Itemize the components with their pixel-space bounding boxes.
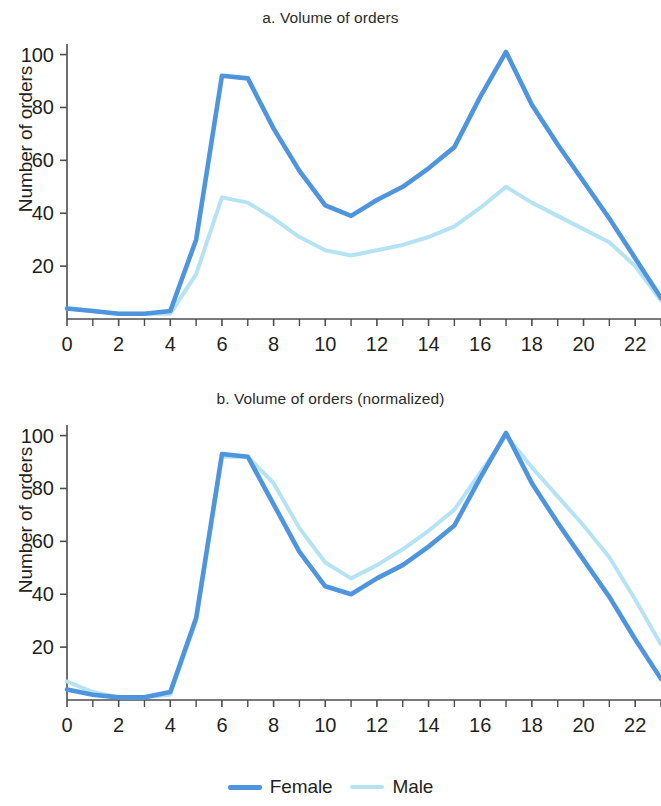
x-axis-tick-label: 18 xyxy=(521,333,543,355)
x-axis-tick-label: 16 xyxy=(469,333,491,355)
x-axis-tick-label: 10 xyxy=(314,333,336,355)
x-axis-tick-label: 2 xyxy=(113,333,124,355)
panel-b-chart-svg: 204060801000246810121416182022 xyxy=(0,413,661,763)
y-axis-tick-label: 40 xyxy=(32,583,54,605)
x-axis-tick-label: 4 xyxy=(165,714,176,736)
series-line-female xyxy=(67,433,661,697)
panel-b: b. Volume of orders (normalized) Number … xyxy=(0,385,661,770)
legend-item-male: Male xyxy=(350,776,433,798)
y-axis-tick-label: 20 xyxy=(32,636,54,658)
y-axis-tick-label: 40 xyxy=(32,202,54,224)
x-axis-tick-label: 20 xyxy=(572,714,594,736)
x-axis-tick-label: 0 xyxy=(61,333,72,355)
panel-b-plot: Number of orders 20406080100024681012141… xyxy=(0,413,661,763)
legend-label-female: Female xyxy=(270,776,333,798)
y-axis-tick-label: 80 xyxy=(32,96,54,118)
x-axis-tick-label: 8 xyxy=(268,714,279,736)
y-axis-tick-label: 100 xyxy=(21,425,54,447)
x-axis-tick-label: 14 xyxy=(417,714,439,736)
x-axis-tick-label: 8 xyxy=(268,333,279,355)
legend-swatch-female-icon xyxy=(228,785,262,790)
x-axis-tick-label: 0 xyxy=(61,714,72,736)
x-axis-tick-label: 10 xyxy=(314,714,336,736)
y-axis-tick-label: 60 xyxy=(32,149,54,171)
x-axis-tick-label: 6 xyxy=(216,714,227,736)
x-axis-tick-label: 2 xyxy=(113,714,124,736)
y-axis-tick-label: 20 xyxy=(32,255,54,277)
x-axis-tick-label: 18 xyxy=(521,714,543,736)
legend-item-female: Female xyxy=(228,776,333,798)
x-axis-tick-label: 22 xyxy=(624,714,646,736)
x-axis-tick-label: 14 xyxy=(417,333,439,355)
legend: Female Male xyxy=(0,770,661,804)
panel-b-title: b. Volume of orders (normalized) xyxy=(0,385,661,413)
x-axis-tick-label: 12 xyxy=(366,714,388,736)
figure-volume-of-orders: a. Volume of orders Number of orders 204… xyxy=(0,0,661,806)
x-axis-tick-label: 22 xyxy=(624,333,646,355)
y-axis-tick-label: 80 xyxy=(32,477,54,499)
x-axis-tick-label: 6 xyxy=(216,333,227,355)
panel-a-chart-svg: 204060801000246810121416182022 xyxy=(0,32,661,382)
panel-a: a. Volume of orders Number of orders 204… xyxy=(0,0,661,385)
x-axis-tick-label: 16 xyxy=(469,714,491,736)
legend-label-male: Male xyxy=(392,776,433,798)
series-line-male xyxy=(67,436,661,698)
x-axis-tick-label: 12 xyxy=(366,333,388,355)
y-axis-tick-label: 100 xyxy=(21,44,54,66)
panel-a-title: a. Volume of orders xyxy=(0,0,661,32)
legend-swatch-male-icon xyxy=(350,785,384,789)
series-line-female xyxy=(67,52,661,314)
x-axis-tick-label: 4 xyxy=(165,333,176,355)
y-axis-tick-label: 60 xyxy=(32,530,54,552)
x-axis-tick-label: 20 xyxy=(572,333,594,355)
panel-a-plot: Number of orders 20406080100024681012141… xyxy=(0,32,661,382)
